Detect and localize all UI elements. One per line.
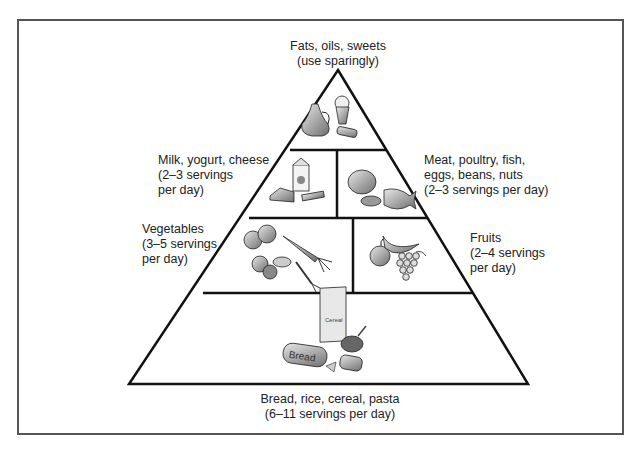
yogurt-icon — [302, 191, 325, 201]
candy-bar-icon — [336, 126, 357, 138]
bread-loaf-icon: Bread — [282, 342, 336, 372]
label-grains: Bread, rice, cereal, pasta (6–11 serving… — [248, 392, 412, 422]
poultry-icon — [348, 170, 381, 206]
label-fruits: Fruits (2–4 servings per day) — [470, 231, 545, 276]
cheese-wedge-icon — [270, 188, 294, 202]
banana-icon — [383, 236, 419, 253]
cereal-box-icon: Cereal — [320, 287, 346, 342]
label-vegetables: Vegetables (3–5 servings per day) — [142, 222, 217, 267]
label-fats: Fats, oils, sweets (use sparingly) — [276, 39, 400, 69]
label-meat: Meat, poultry, fish, eggs, beans, nuts (… — [424, 153, 548, 198]
tomato-icon — [244, 225, 276, 249]
milk-carton-icon — [293, 158, 309, 191]
broccoli-icon — [252, 256, 291, 279]
label-milk: Milk, yogurt, cheese (2–3 servings per d… — [158, 153, 269, 198]
oil-cruet-icon — [302, 104, 329, 136]
grapes-icon — [397, 252, 426, 281]
svg-text:Cereal: Cereal — [325, 317, 343, 323]
ice-cream-cone-icon — [335, 96, 349, 124]
sandwich-icon — [339, 354, 363, 372]
